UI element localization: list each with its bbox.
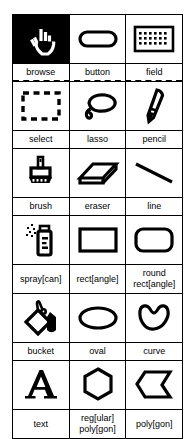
tool-label-text: poly[gon] — [136, 419, 173, 430]
tool-label-select: select — [13, 131, 69, 148]
icon-row — [13, 216, 182, 264]
tool-cell-field[interactable] — [125, 15, 182, 63]
tool-cell-button[interactable] — [69, 15, 126, 63]
tool-label-rect: rect[angle] — [69, 265, 126, 293]
tool-cell-eraser[interactable] — [69, 149, 126, 197]
line-icon — [132, 160, 176, 186]
tool-label-polygon: poly[gon] — [125, 410, 182, 438]
tool-cell-browse[interactable] — [13, 15, 69, 63]
tool-label-browse: browse — [13, 64, 69, 81]
tool-label-text: curve — [143, 346, 165, 357]
paint-bucket-icon — [20, 298, 62, 338]
polygon-icon — [132, 368, 176, 402]
tool-cell-regpoly[interactable] — [69, 361, 126, 409]
text-letter-a-icon — [21, 365, 61, 405]
tool-label-text: spray[can] — [20, 274, 62, 285]
tool-label-text: rect[angle] — [76, 274, 118, 285]
tool-label-text: text — [13, 410, 69, 438]
label-row: select lasso pencil — [13, 130, 182, 148]
text-field-grid-icon — [132, 24, 176, 54]
tool-cell-roundrect[interactable] — [125, 216, 182, 264]
tool-cell-curve[interactable] — [125, 294, 182, 342]
tool-label-bucket: bucket — [13, 343, 69, 360]
tool-label-text: brush — [30, 201, 53, 212]
tool-label-spray: spray[can] — [13, 265, 69, 293]
tool-cell-bucket[interactable] — [13, 294, 69, 342]
label-row: bucket oval curve — [13, 342, 182, 360]
tool-label-text: lasso — [87, 134, 108, 145]
tool-cell-pencil[interactable] — [125, 82, 182, 130]
label-row: text reg[ular] poly[gon] poly[gon] — [13, 409, 182, 438]
rounded-rectangle-icon — [132, 225, 176, 255]
tool-label-oval: oval — [69, 343, 126, 360]
tool-cell-text[interactable] — [13, 361, 69, 409]
rounded-button-icon — [76, 25, 120, 53]
eraser-icon — [76, 157, 120, 189]
tool-cell-brush[interactable] — [13, 149, 69, 197]
tool-label-brush: brush — [13, 198, 69, 215]
tool-palette: browse button field — [12, 14, 183, 439]
curve-icon — [134, 302, 174, 334]
tool-label-line: line — [125, 198, 182, 215]
oval-icon — [76, 303, 120, 333]
lasso-icon — [77, 89, 119, 123]
icon-row — [13, 82, 182, 130]
tool-label-text: oval — [89, 346, 106, 357]
label-row: spray[can] rect[angle] round rect[angle] — [13, 264, 182, 293]
icon-row — [13, 15, 182, 63]
tool-group-object-tools: browse button field — [13, 15, 182, 81]
tool-label-pencil: pencil — [125, 131, 182, 148]
tool-cell-line[interactable] — [125, 149, 182, 197]
tool-label-field: field — [125, 64, 182, 81]
regular-polygon-icon — [79, 365, 117, 405]
tool-label-text: select — [29, 134, 53, 145]
icon-row — [13, 361, 182, 409]
pencil-icon — [137, 86, 171, 126]
tool-label-text-line2: poly[gon] — [79, 424, 116, 435]
paintbrush-icon — [23, 153, 59, 193]
tool-label-button: button — [69, 64, 126, 81]
tool-group-selection-and-draw-tools: select lasso pencil — [13, 81, 182, 148]
tool-label-lasso: lasso — [69, 131, 126, 148]
spray-can-icon — [21, 219, 61, 261]
tool-label-eraser: eraser — [69, 198, 126, 215]
hand-pointer-icon — [21, 19, 61, 59]
tool-cell-spray[interactable] — [13, 216, 69, 264]
tool-label-text: button — [85, 67, 110, 78]
tool-label-roundrect: round rect[angle] — [125, 265, 182, 293]
tool-cell-lasso[interactable] — [69, 82, 126, 130]
tool-label-curve: curve — [125, 343, 182, 360]
label-row: brush eraser line — [13, 197, 182, 215]
tool-label-text: bucket — [28, 346, 55, 357]
tool-label-text: browse — [26, 67, 55, 78]
tool-group-paint-tools: brush eraser line — [13, 148, 182, 215]
tool-cell-rect[interactable] — [69, 216, 126, 264]
icon-row — [13, 149, 182, 197]
marquee-select-icon — [20, 90, 62, 122]
tool-label-text-line2: rect[angle] — [133, 279, 175, 290]
tool-group-shape-tools-2: bucket oval curve — [13, 293, 182, 360]
tool-cell-select[interactable] — [13, 82, 69, 130]
tool-group-shape-tools-1: spray[can] rect[angle] round rect[angle] — [13, 215, 182, 293]
tool-group-text-and-polygon-tools: text reg[ular] poly[gon] poly[gon] — [13, 360, 182, 438]
tool-cell-polygon[interactable] — [125, 361, 182, 409]
tool-label-regpoly: reg[ular] poly[gon] — [69, 410, 126, 438]
tool-cell-oval[interactable] — [69, 294, 126, 342]
tool-label-text: line — [147, 201, 161, 212]
tool-label-text: eraser — [85, 201, 111, 212]
tool-label-text: field — [146, 67, 163, 78]
tool-label-text: round — [143, 268, 166, 279]
tool-label-text: text — [34, 419, 49, 430]
icon-row — [13, 294, 182, 342]
tool-label-text: reg[ular] — [81, 413, 114, 424]
rectangle-icon — [76, 225, 120, 255]
label-row: browse button field — [13, 63, 182, 81]
tool-label-text: pencil — [142, 134, 166, 145]
